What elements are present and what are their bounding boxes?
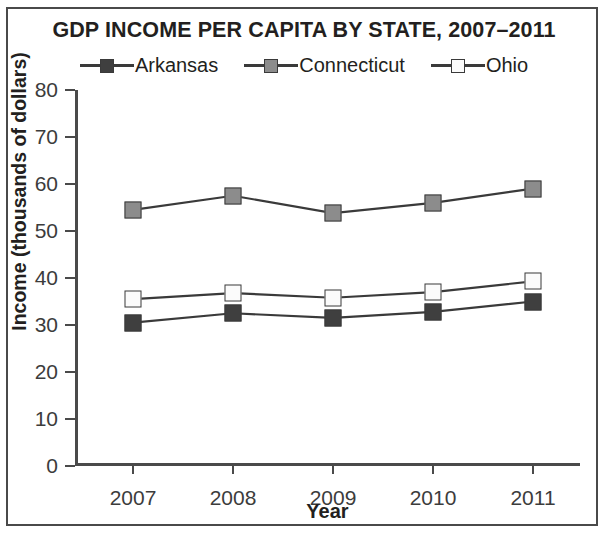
y-tick-label: 10 — [35, 407, 58, 431]
y-axis-title: Income (thousands of dollars) — [8, 0, 31, 442]
data-point-connecticut-2007 — [125, 201, 142, 218]
legend-line-sample — [80, 58, 134, 74]
chart-title: GDP INCOME PER CAPITA BY STATE, 2007–201… — [0, 18, 608, 43]
y-tick-label: 70 — [35, 125, 58, 149]
y-tick: 0 — [65, 465, 75, 467]
chart-legend: ArkansasConnecticutOhio — [0, 54, 608, 77]
y-tick-label: 60 — [35, 172, 58, 196]
data-point-arkansas-2008 — [225, 305, 242, 322]
data-point-arkansas-2007 — [125, 314, 142, 331]
data-point-connecticut-2010 — [425, 194, 442, 211]
y-tick: 50 — [65, 230, 75, 232]
chart-figure: GDP INCOME PER CAPITA BY STATE, 2007–201… — [0, 0, 608, 538]
legend-marker-square-icon — [451, 59, 465, 73]
legend-line-sample — [431, 58, 485, 74]
y-tick-label: 50 — [35, 219, 58, 243]
data-point-connecticut-2008 — [225, 187, 242, 204]
y-tick-label: 30 — [35, 313, 58, 337]
y-tick: 80 — [65, 89, 75, 91]
y-tick: 70 — [65, 136, 75, 138]
y-tick: 10 — [65, 418, 75, 420]
y-tick: 20 — [65, 371, 75, 373]
data-point-ohio-2007 — [125, 291, 142, 308]
legend-item-arkansas: Arkansas — [80, 54, 218, 77]
data-point-ohio-2009 — [325, 289, 342, 306]
legend-label: Arkansas — [135, 54, 218, 77]
data-point-ohio-2011 — [525, 273, 542, 290]
y-tick-label: 0 — [46, 454, 58, 478]
y-tick-label: 40 — [35, 266, 58, 290]
data-point-connecticut-2011 — [525, 180, 542, 197]
data-point-arkansas-2010 — [425, 303, 442, 320]
data-point-arkansas-2011 — [525, 293, 542, 310]
y-tick: 60 — [65, 183, 75, 185]
legend-item-connecticut: Connecticut — [244, 54, 405, 77]
series-lines — [75, 90, 580, 466]
legend-marker-square-icon — [100, 59, 114, 73]
data-point-ohio-2010 — [425, 284, 442, 301]
y-tick: 30 — [65, 324, 75, 326]
legend-label: Connecticut — [299, 54, 405, 77]
data-point-arkansas-2009 — [325, 309, 342, 326]
legend-marker-square-icon — [264, 59, 278, 73]
legend-item-ohio: Ohio — [431, 54, 528, 77]
legend-label: Ohio — [486, 54, 528, 77]
legend-line-sample — [244, 58, 298, 74]
x-axis-title: Year — [75, 500, 580, 523]
data-point-ohio-2008 — [225, 285, 242, 302]
plot-area: 01020304050607080 20072008200920102011 — [75, 90, 580, 463]
y-tick-label: 80 — [35, 78, 58, 102]
data-point-connecticut-2009 — [325, 205, 342, 222]
y-tick: 40 — [65, 277, 75, 279]
y-tick-label: 20 — [35, 360, 58, 384]
